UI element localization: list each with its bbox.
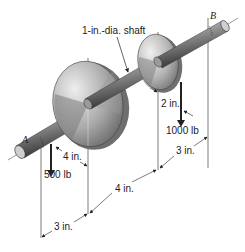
offset-label-large: 4 in. <box>63 151 82 162</box>
dim-small-b-line-1 <box>160 156 174 168</box>
force-label-1000: 1000 lb <box>166 125 199 136</box>
dim-small-b-line-2 <box>194 137 207 146</box>
dim-small-b-label: 3 in. <box>176 145 195 156</box>
offset-arrow-small-2 <box>184 111 193 116</box>
shaft-leader-line <box>117 37 128 72</box>
dim-a-large-line-1 <box>42 231 52 237</box>
shaft-label: 1-in.-dia. shaft <box>82 25 146 36</box>
point-a-label: A <box>21 134 29 145</box>
dim-large-small-label: 4 in. <box>115 183 134 194</box>
dim-large-small-line-2 <box>132 170 156 182</box>
dim-a-large-label: 3 in. <box>54 221 73 232</box>
dim-a-large-line-2 <box>74 214 87 222</box>
offset-arrow-large-2 <box>80 162 87 166</box>
offset-arrow-large-1 <box>56 147 62 151</box>
dim-large-small-line-1 <box>90 193 112 213</box>
offset-label-small: 2 in. <box>161 98 180 109</box>
shaft-diagram: 1-in.-dia. shaft A B 1000 lb 2 in. 500 l… <box>0 0 245 252</box>
point-b-label: B <box>210 10 216 21</box>
force-label-500: 500 lb <box>44 169 72 180</box>
